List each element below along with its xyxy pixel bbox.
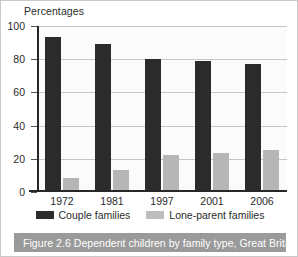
bar-group [137,26,187,190]
x-tick-label: 1981 [100,195,123,207]
bar-1972-lone-parent [63,178,79,190]
y-axis-title: Percentages [24,5,84,17]
y-tick-label: 0 [3,187,25,198]
bar-1972-couple [45,37,61,190]
figure-caption-text: Figure 2.6 Dependent children by family … [23,237,298,249]
y-tick-label: 40 [3,120,25,131]
bar-1997-lone-parent [163,155,179,190]
bar-1981-lone-parent [113,170,129,190]
y-tick-label: 100 [3,21,25,32]
bar-2006-lone-parent [263,150,279,190]
bar-2001-couple [195,61,211,190]
bar-2006-couple [245,64,261,190]
x-axis-tick-labels: 19721981199720012006 [37,195,287,209]
chart-legend: Couple families Lone-parent families [1,209,298,221]
bar-group [187,26,237,190]
bar-group [87,26,137,190]
legend-swatch-icon-lone [146,211,164,219]
legend-item-lone-parent-families: Lone-parent families [146,209,264,221]
legend-label-couple: Couple families [59,209,131,221]
y-tick-label: 80 [3,54,25,65]
legend-label-lone: Lone-parent families [169,209,264,221]
y-tick-label: 20 [3,154,25,165]
x-tick-label: 1997 [150,195,173,207]
plot-area [29,26,287,192]
x-tick-label: 1972 [50,195,73,207]
bar-2001-lone-parent [213,153,229,190]
x-tick-label: 2006 [250,195,273,207]
legend-item-couple-families: Couple families [36,209,131,221]
bar-1997-couple [145,59,161,190]
figure-caption-bar: Figure 2.6 Dependent children by family … [14,233,286,252]
bar-group [237,26,287,190]
bar-group [37,26,87,190]
x-axis-line [29,190,287,192]
y-tick-mark [31,192,37,193]
figure-container: Percentages 020406080100 197219811997200… [0,0,298,257]
bars-layer [37,26,287,190]
x-tick-label: 2001 [200,195,223,207]
legend-swatch-icon-couple [36,211,54,219]
y-tick-label: 60 [3,87,25,98]
y-axis-tick-labels: 020406080100 [1,26,25,192]
bar-1981-couple [95,44,111,190]
